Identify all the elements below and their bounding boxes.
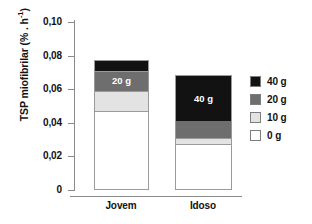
legend-label-20g: 20 g [267, 94, 287, 105]
bar-idoso-segment-0g[interactable] [176, 144, 231, 189]
legend-item-10g[interactable]: 10 g [250, 112, 287, 123]
y-tick-label-2: 0,06 [16, 83, 62, 94]
legend-item-40g[interactable]: 40 g [250, 76, 287, 87]
legend-item-0g[interactable]: 0 g [250, 130, 287, 141]
y-tick-label-5: 0 [16, 184, 62, 195]
plot-area: 20 g 40 g [74, 22, 238, 190]
bar-jovem[interactable]: 20 g [94, 60, 149, 190]
legend-label-40g: 40 g [267, 76, 287, 87]
legend: 40 g 20 g 10 g 0 g [250, 76, 287, 141]
x-axis-label-jovem: Jovem [76, 200, 166, 211]
legend-item-20g[interactable]: 20 g [250, 94, 287, 105]
bar-idoso-segment-40g[interactable]: 40 g [176, 76, 231, 121]
y-tick-label-1: 0,08 [16, 50, 62, 61]
bar-idoso-segment-40g-label: 40 g [194, 94, 213, 104]
y-axis-title-main: TSP miofibrilar (% . h [18, 18, 30, 121]
legend-label-10g: 10 g [267, 112, 287, 123]
y-tick-label-3: 0,04 [16, 117, 62, 128]
legend-swatch-0g [250, 130, 261, 141]
stacked-bar-chart: TSP miofibrilar (% . h-1) 0,10 0,08 0,06… [0, 0, 312, 224]
bar-idoso[interactable]: 40 g [175, 75, 232, 190]
bar-jovem-segment-20g[interactable]: 20 g [95, 71, 148, 91]
bar-jovem-segment-10g[interactable] [95, 91, 148, 112]
bar-jovem-segment-0g[interactable] [95, 111, 148, 189]
bar-jovem-segment-40g[interactable] [95, 61, 148, 71]
legend-swatch-20g [250, 94, 261, 105]
legend-label-0g: 0 g [267, 130, 281, 141]
y-tick-mark-5 [68, 190, 74, 191]
y-axis-title-tail: ) [18, 8, 30, 11]
y-tick-label-0: 0,10 [16, 16, 62, 27]
legend-swatch-10g [250, 112, 261, 123]
x-axis-label-idoso: Idoso [158, 200, 248, 211]
bar-jovem-segment-20g-label: 20 g [112, 76, 131, 86]
legend-swatch-40g [250, 76, 261, 87]
x-axis-line [70, 196, 242, 197]
bar-idoso-segment-20g[interactable] [176, 121, 231, 138]
y-tick-label-4: 0,02 [16, 150, 62, 161]
